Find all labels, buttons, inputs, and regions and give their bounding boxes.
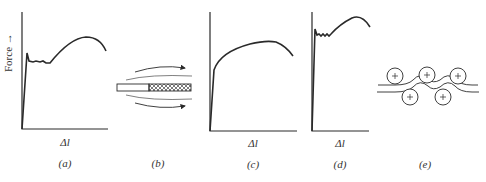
panel-c-curve <box>210 41 293 131</box>
y-axis-label: Force → <box>2 33 14 72</box>
flow-line-bottom <box>126 95 192 100</box>
panel-a-axes <box>22 12 108 129</box>
panel-d-plot <box>312 12 370 131</box>
panel-a-x-label: Δl <box>60 136 70 148</box>
panel-c-x-label: Δl <box>248 137 258 149</box>
flow-arrow-top <box>135 67 185 72</box>
panel-c-caption: (c) <box>247 158 259 170</box>
panel-a-caption: (a) <box>59 157 72 169</box>
panel-d-x-label: Δl <box>335 137 345 149</box>
panel-c-plot <box>210 12 297 131</box>
figure-canvas <box>0 0 486 182</box>
panel-b-luders-band <box>117 67 192 108</box>
panel-b-caption: (b) <box>152 157 165 169</box>
flow-arrow-bottom <box>135 103 185 107</box>
panel-d-axes <box>312 12 369 131</box>
specimen-plain <box>117 84 149 91</box>
panel-d-caption: (d) <box>334 158 347 170</box>
panel-e-caption: (e) <box>419 158 431 170</box>
panel-c-axes <box>210 12 297 131</box>
panel-d-curve <box>312 17 370 131</box>
panel-e-roller-leveler <box>377 67 479 105</box>
flow-line-top <box>126 76 192 81</box>
specimen-hatched <box>149 84 191 91</box>
panel-a-plot <box>22 12 108 129</box>
panel-a-curve <box>22 37 106 129</box>
